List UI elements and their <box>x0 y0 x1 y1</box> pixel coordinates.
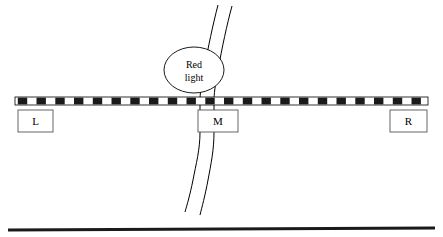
box-right[interactable]: R <box>390 110 427 132</box>
ground-line <box>8 228 435 230</box>
red-light-label-line2: light <box>185 72 204 83</box>
diagram-canvas: L M R Red light <box>0 0 443 237</box>
box-left[interactable]: L <box>18 110 53 132</box>
box-middle-label: M <box>213 115 223 127</box>
box-right-label: R <box>405 115 413 127</box>
road-left-edge <box>185 5 218 212</box>
red-light-ellipse[interactable] <box>164 47 224 93</box>
striped-barrier <box>15 97 428 105</box>
diagram-svg: L M R Red light <box>0 0 443 237</box>
red-light-label-line1: Red <box>186 59 202 70</box>
box-middle[interactable]: M <box>198 110 238 132</box>
red-light-callout[interactable]: Red light <box>164 47 224 93</box>
box-left-label: L <box>32 115 39 127</box>
